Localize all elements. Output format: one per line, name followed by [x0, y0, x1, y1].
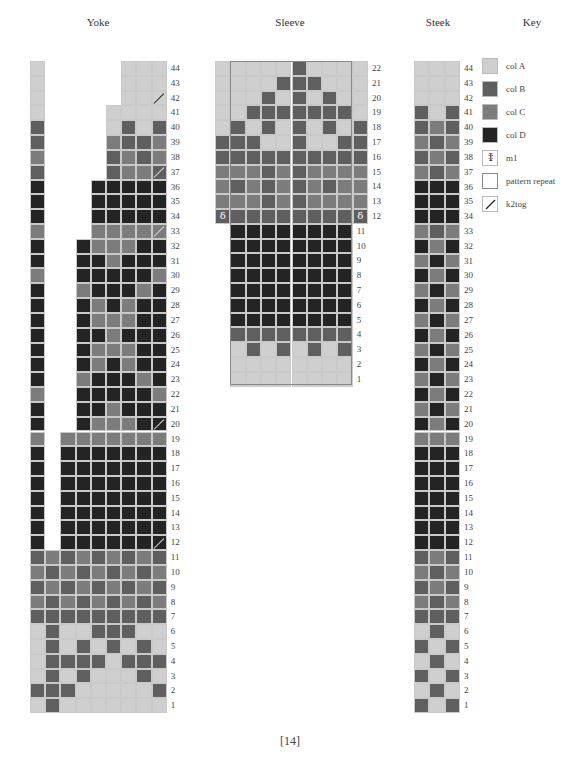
- chart-cell: [414, 283, 429, 298]
- chart-cell: [136, 268, 151, 283]
- chart-cell: [337, 224, 352, 239]
- chart-cell: [230, 150, 245, 165]
- chart-cell: [152, 61, 167, 76]
- chart-cell: [276, 239, 291, 254]
- chart-cell: [136, 476, 151, 491]
- chart-cell: [414, 313, 429, 328]
- chart-cell: [136, 343, 151, 358]
- chart-cell: [429, 565, 444, 580]
- chart-cell: [121, 639, 136, 654]
- chart-cell: [121, 550, 136, 565]
- row-number: 12: [464, 538, 473, 547]
- key-item-col-c: col C: [482, 104, 577, 122]
- chart-cell: [414, 61, 429, 76]
- chart-cell: [91, 209, 106, 224]
- row-number: 32: [464, 242, 473, 251]
- chart-cell: [215, 179, 230, 194]
- row-number: 21: [171, 405, 180, 414]
- chart-cell: [136, 683, 151, 698]
- row-number: 8: [171, 598, 176, 607]
- chart-cell: [30, 683, 45, 698]
- chart-cell: [91, 417, 106, 432]
- chart-cell: [45, 550, 60, 565]
- chart-cell: [136, 535, 151, 550]
- chart-cell: [106, 520, 121, 535]
- chart-cell: [337, 105, 352, 120]
- chart-cell: [353, 165, 368, 180]
- chart-cell: [30, 446, 45, 461]
- key-item-col-b: col B: [482, 81, 577, 99]
- chart-cell: [414, 491, 429, 506]
- chart-cell: [445, 61, 460, 76]
- chart-cell: [276, 61, 291, 76]
- row-number: 30: [464, 271, 473, 280]
- row-number: 12: [372, 212, 381, 221]
- chart-cell: [30, 580, 45, 595]
- chart-cell: [322, 327, 337, 342]
- chart-cell: [261, 165, 276, 180]
- chart-cell: [121, 372, 136, 387]
- chart-cell: [414, 550, 429, 565]
- chart-cell: [152, 194, 167, 209]
- row-number: 2: [171, 686, 176, 695]
- chart-cell: [30, 491, 45, 506]
- key-label: col D: [506, 130, 526, 140]
- chart-cell: [136, 150, 151, 165]
- chart-cell: [445, 135, 460, 150]
- chart-cell: [445, 254, 460, 269]
- chart-cell: [429, 283, 444, 298]
- row-number: 42: [464, 94, 473, 103]
- chart-cell: [337, 268, 352, 283]
- chart-cell: [261, 342, 276, 357]
- chart-cell: [414, 224, 429, 239]
- chart-cell: [276, 283, 291, 298]
- chart-cell: [307, 253, 322, 268]
- chart-cell: [322, 179, 337, 194]
- chart-cell: [136, 135, 151, 150]
- chart-cell: [106, 135, 121, 150]
- chart-cell: [76, 313, 91, 328]
- chart-cell: [91, 239, 106, 254]
- chart-cell: [136, 461, 151, 476]
- row-number: 14: [171, 509, 180, 518]
- chart-cell: [106, 491, 121, 506]
- chart-cell: [45, 609, 60, 624]
- row-number: 10: [464, 568, 473, 577]
- chart-cell: [429, 254, 444, 269]
- chart-cell: [445, 432, 460, 447]
- chart-cell: [429, 224, 444, 239]
- chart-cell: [414, 180, 429, 195]
- chart-cell: [30, 565, 45, 580]
- chart-cell: [445, 669, 460, 684]
- chart-cell: [106, 565, 121, 580]
- chart-cell: [106, 580, 121, 595]
- chart-cell: [30, 283, 45, 298]
- chart-cell: [322, 372, 337, 387]
- chart-cell: [30, 165, 45, 180]
- chart-cell: [337, 120, 352, 135]
- row-number: 10: [357, 242, 366, 251]
- chart-cell: [91, 313, 106, 328]
- chart-cell: [429, 194, 444, 209]
- chart-cell: [429, 535, 444, 550]
- chart-cell: [136, 298, 151, 313]
- chart-cell: [261, 239, 276, 254]
- chart-cell: [30, 224, 45, 239]
- chart-cell: [292, 91, 307, 106]
- chart-cell: [276, 120, 291, 135]
- chart-cell: [414, 387, 429, 402]
- chart-cell: [215, 165, 230, 180]
- chart-cell: [445, 343, 460, 358]
- chart-cell: [60, 461, 75, 476]
- chart-cell: [337, 91, 352, 106]
- chart-cell: [307, 76, 322, 91]
- chart-cell: [76, 595, 91, 610]
- chart-cell: [445, 698, 460, 713]
- chart-cell: [429, 91, 444, 106]
- chart-cell: [121, 165, 136, 180]
- chart-cell: [136, 520, 151, 535]
- chart-cell: [106, 550, 121, 565]
- chart-cell: [445, 683, 460, 698]
- row-number: 23: [171, 375, 180, 384]
- row-number: 28: [464, 301, 473, 310]
